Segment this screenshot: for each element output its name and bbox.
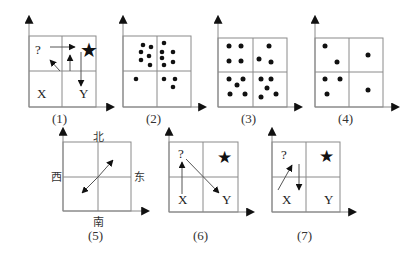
caption: (4) <box>338 111 353 126</box>
figure-1: ? X Y ★ (1) <box>29 22 108 126</box>
dot-icon <box>323 44 371 97</box>
caption: (3) <box>241 111 256 126</box>
star-icon: ★ <box>319 146 334 166</box>
figure-6: ? X Y ★ (6) <box>169 134 248 243</box>
figure-5: 北 南 西 东 (5) <box>51 131 145 243</box>
figure-3: (3) <box>218 22 296 126</box>
figure-4: (4) <box>315 22 393 126</box>
x-label: X <box>178 192 188 207</box>
x-label: X <box>282 192 292 207</box>
dot-icon <box>134 41 178 90</box>
figure-2: (2) <box>123 22 200 126</box>
arrow-icon <box>82 177 98 193</box>
diagram-canvas: ? X Y ★ (1) (2) <box>0 0 420 262</box>
star-icon: ★ <box>217 147 232 167</box>
caption: (7) <box>297 228 312 243</box>
caption: (5) <box>88 228 103 243</box>
caption: (2) <box>146 111 161 126</box>
y-label: Y <box>324 192 334 207</box>
caption: (6) <box>193 228 208 243</box>
question-label: ? <box>281 147 287 162</box>
y-label: Y <box>222 192 232 207</box>
east-label: 东 <box>134 171 145 184</box>
question-label: ? <box>35 42 41 57</box>
figure-7: ? X Y ★ (7) <box>272 134 350 243</box>
arrow-icon <box>98 160 113 177</box>
arrow-icon <box>50 60 60 71</box>
y-label: Y <box>79 86 89 101</box>
star-icon: ★ <box>80 38 98 62</box>
north-label: 北 <box>93 131 104 144</box>
x-label: X <box>37 86 47 101</box>
caption: (1) <box>52 111 67 126</box>
west-label: 西 <box>51 171 62 184</box>
question-label: ? <box>178 146 184 161</box>
